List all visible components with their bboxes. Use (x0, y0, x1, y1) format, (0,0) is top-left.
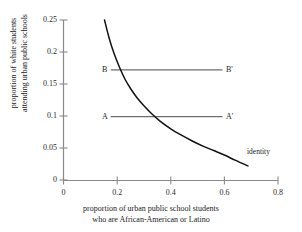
x-axis-label-line2: who are African-American or Latino (0, 214, 302, 225)
y-tick-label-0.25: 0.25 (31, 16, 57, 24)
y-tick-label-0.15: 0.15 (31, 80, 57, 88)
x-tick-label-0.8: 0.8 (268, 189, 288, 197)
x-tick-label-0.6: 0.6 (214, 189, 234, 197)
label-a: A (102, 113, 108, 121)
y-axis-label-line1: proportion of white students (8, 0, 19, 138)
y-axis-label: proportion of white students attending u… (8, 0, 30, 138)
chart-figure: 0.25 0.2 0.15 0.1 0.05 0 0 0.2 0.4 0.6 0… (0, 0, 302, 232)
axes (64, 20, 279, 181)
y-tick-label-0.1: 0.1 (31, 112, 57, 120)
label-b: B (102, 66, 107, 74)
x-axis-label: proportion of urban public school studen… (0, 203, 302, 225)
y-tick-label-0.2: 0.2 (31, 48, 57, 56)
y-axis-label-line2: attending urban public schools (19, 0, 30, 138)
x-axis-label-line1: proportion of urban public school studen… (0, 203, 302, 214)
identity-curve (105, 20, 248, 166)
identity-annotation: identity (247, 148, 270, 156)
y-tick-label-0: 0 (31, 176, 57, 184)
x-tick-label-0: 0 (54, 189, 74, 197)
x-tick-label-0.4: 0.4 (161, 189, 181, 197)
x-tick-label-0.2: 0.2 (107, 189, 127, 197)
y-tick-label-0.05: 0.05 (31, 144, 57, 152)
label-b-prime: B' (226, 66, 233, 74)
label-a-prime: A' (226, 113, 233, 121)
